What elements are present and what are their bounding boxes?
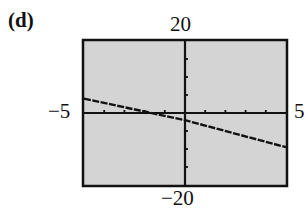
graph-plot <box>0 0 308 212</box>
